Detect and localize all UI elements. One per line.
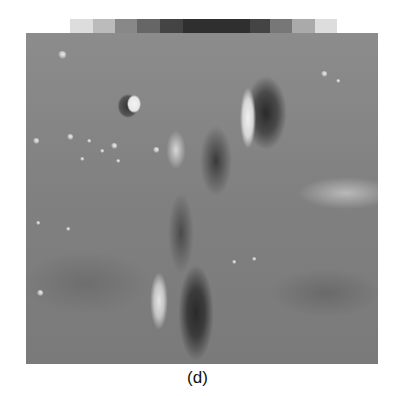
planetary-surface-photo [26,33,378,364]
gray-step-segment [160,19,183,33]
gray-step-segment [250,19,270,33]
small-crater [33,138,39,144]
small-crater [37,290,43,296]
gray-step-segment [115,19,137,33]
figure-caption: (d) [0,368,395,388]
gray-step-segment [93,19,115,33]
small-crater [111,143,117,149]
small-crater [36,221,40,225]
gray-step-segment [137,19,160,33]
gray-step-segment [270,19,292,33]
small-crater [100,149,104,153]
small-crater [153,147,159,153]
small-crater [232,260,236,264]
gray-step-segment [183,19,250,33]
gray-calibration-strip [70,19,337,33]
small-crater [58,51,66,59]
small-crater [252,257,256,261]
small-crater [67,134,73,140]
small-crater [66,227,70,231]
gray-step-segment [70,19,93,33]
gray-step-segment [315,19,337,33]
gray-step-segment [292,19,315,33]
small-crater [336,79,340,83]
small-crater [321,71,327,77]
small-crater [87,139,91,143]
small-crater [80,157,84,161]
small-crater [116,159,120,163]
